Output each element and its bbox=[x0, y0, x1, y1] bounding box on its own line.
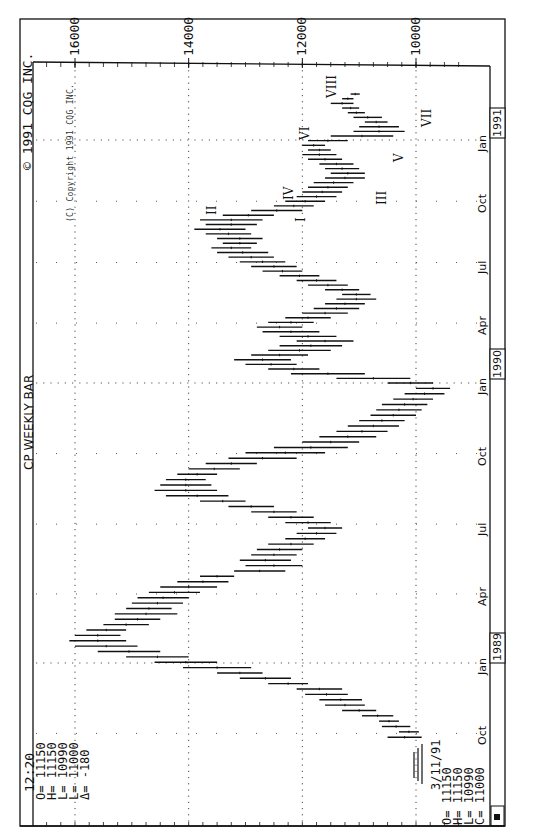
wave-label: VIII bbox=[325, 75, 339, 98]
wave-label: III bbox=[375, 191, 389, 205]
inner-copyright: (C) Copyright 1991 CQG INC. bbox=[66, 84, 75, 222]
time-tick-label: Jan bbox=[476, 658, 489, 675]
status-square-icon bbox=[494, 814, 500, 820]
year-label: 1989 bbox=[491, 633, 504, 661]
year-label: 1990 bbox=[491, 350, 504, 378]
weekly-bar-chart bbox=[0, 0, 542, 839]
price-tick-label: 14000 bbox=[181, 17, 196, 56]
price-tick-label: 12000 bbox=[294, 17, 309, 56]
price-bars bbox=[69, 93, 450, 784]
wave-label: I bbox=[294, 217, 308, 222]
time-tick-label: Oct bbox=[476, 726, 489, 745]
wave-label: IV bbox=[282, 187, 296, 200]
time-tick-label: Oct bbox=[476, 447, 489, 466]
copyright-header: © 1991 CQG INC. bbox=[20, 53, 35, 170]
time-tick-label: Oct bbox=[476, 194, 489, 213]
wave-label: VI bbox=[298, 127, 312, 140]
wave-label: VII bbox=[420, 109, 434, 127]
grid bbox=[36, 64, 488, 826]
time-tick-label: Jan bbox=[476, 135, 489, 152]
wave-label: II bbox=[205, 206, 219, 215]
price-tick-label: 10000 bbox=[408, 17, 423, 56]
time-tick-label: Apr bbox=[476, 316, 489, 335]
last-delta: Δ= -180 bbox=[79, 749, 91, 800]
axis-ticks bbox=[47, 58, 459, 826]
time-tick-label: Jul bbox=[476, 261, 489, 274]
time-tick-label: Apr bbox=[476, 587, 489, 606]
time-tick-label: Jul bbox=[476, 523, 489, 536]
current-close: C= 11000 bbox=[474, 767, 486, 825]
price-axis-line bbox=[33, 62, 490, 66]
wave-label: V bbox=[392, 153, 406, 162]
time-tick-label: Jan bbox=[476, 378, 489, 395]
year-label: 1991 bbox=[491, 109, 504, 137]
price-tick-label: 16000 bbox=[67, 17, 82, 56]
chart-title: CP WEEKLY BAR bbox=[22, 375, 36, 470]
